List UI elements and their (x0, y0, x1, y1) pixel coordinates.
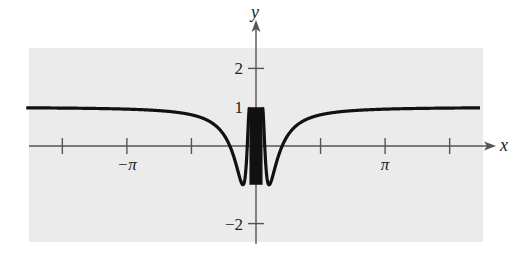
y-tick-label: 2 (235, 59, 244, 78)
oscillation-band (249, 107, 262, 185)
x-tick-label: −π (117, 155, 137, 174)
y-tick-label: 1 (235, 98, 244, 117)
y-axis-label: y (249, 2, 259, 22)
x-tick-label: π (381, 155, 390, 174)
x-axis-label: x (499, 135, 508, 155)
chart: −ππ 21−2 x y (0, 0, 527, 255)
y-tick-label: −2 (225, 215, 243, 234)
